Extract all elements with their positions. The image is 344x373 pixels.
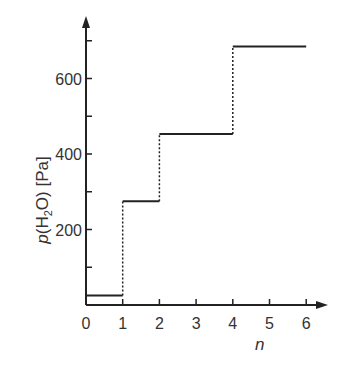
y-axis bbox=[82, 16, 92, 305]
x-axis bbox=[86, 299, 328, 309]
x-tick-labels: 0123456 bbox=[82, 315, 311, 332]
y-axis-arrow-icon bbox=[82, 16, 90, 28]
step-chart: 200400600 0123456 n p(H2O) [Pa] bbox=[0, 0, 344, 373]
x-tick-label: 2 bbox=[155, 315, 164, 332]
step-series bbox=[86, 46, 306, 295]
x-axis-arrow-icon bbox=[316, 301, 328, 309]
y-tick-label: 400 bbox=[55, 146, 82, 163]
x-tick-label: 4 bbox=[228, 315, 237, 332]
x-tick-label: 0 bbox=[82, 315, 91, 332]
x-axis-label: n bbox=[255, 335, 264, 354]
x-tick-label: 1 bbox=[118, 315, 127, 332]
x-tick-label: 5 bbox=[265, 315, 274, 332]
y-tick-label: 600 bbox=[55, 71, 82, 88]
x-tick-label: 3 bbox=[192, 315, 201, 332]
y-tick-label: 200 bbox=[55, 222, 82, 239]
x-tick-label: 6 bbox=[302, 315, 311, 332]
y-axis-label: p(H2O) [Pa] bbox=[33, 156, 54, 244]
y-tick-labels: 200400600 bbox=[55, 71, 82, 239]
